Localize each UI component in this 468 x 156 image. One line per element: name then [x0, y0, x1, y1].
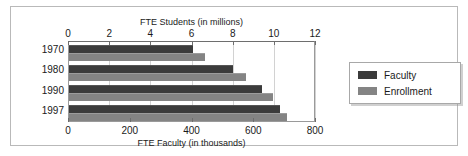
chart-legend: FacultyEnrollment — [349, 62, 461, 104]
bottom-axis-tick-label: 800 — [300, 125, 330, 136]
top-axis-tick-mark — [109, 41, 110, 45]
top-axis-tick-mark — [233, 41, 234, 45]
category-label: 1980 — [29, 64, 64, 75]
bar-faculty — [69, 65, 233, 73]
bar-faculty — [69, 45, 193, 53]
top-axis-tick-mark — [150, 41, 151, 45]
category-label: 1970 — [29, 44, 64, 55]
legend-label: Faculty — [384, 70, 416, 81]
bar-row — [69, 62, 314, 82]
bar-enrollment — [69, 113, 287, 121]
bottom-axis-tick-label: 0 — [53, 125, 83, 136]
top-axis-tick-label: 2 — [94, 28, 124, 39]
top-axis-tick-mark — [315, 41, 316, 45]
plot-area — [68, 41, 315, 122]
bottom-axis-tick-mark — [315, 118, 316, 122]
bottom-axis-tick-mark — [130, 118, 131, 122]
top-axis-tick-label: 4 — [135, 28, 165, 39]
bar-faculty — [69, 105, 280, 113]
top-axis-tick-label: 12 — [300, 28, 330, 39]
bottom-axis-tick-mark — [192, 118, 193, 122]
legend-swatch-icon — [358, 87, 377, 95]
bar-enrollment — [69, 93, 273, 101]
gridline — [315, 42, 316, 121]
top-axis-tick-label: 6 — [177, 28, 207, 39]
top-axis-tick-mark — [68, 41, 69, 45]
chart-screenshot: FTE Students (in millions) 024681012 197… — [0, 0, 468, 156]
top-axis-title: FTE Students (in millions) — [68, 17, 315, 27]
bottom-axis-title: FTE Faculty (in thousands) — [68, 138, 315, 148]
top-axis-tick-mark — [274, 41, 275, 45]
top-axis-tick-label: 8 — [218, 28, 248, 39]
category-label: 1997 — [29, 105, 64, 116]
bar-enrollment — [69, 53, 205, 61]
bottom-axis-tick-label: 200 — [115, 125, 145, 136]
bottom-axis-tick-mark — [68, 118, 69, 122]
bottom-axis-tick-label: 600 — [238, 125, 268, 136]
legend-swatch-icon — [358, 71, 377, 79]
bottom-axis-tick-mark — [253, 118, 254, 122]
chart-frame: FTE Students (in millions) 024681012 197… — [10, 6, 458, 146]
legend-label: Enrollment — [384, 86, 432, 97]
bar-faculty — [69, 85, 262, 93]
bar-row — [69, 42, 314, 62]
top-axis-tick-label: 0 — [53, 28, 83, 39]
legend-entry[interactable]: Faculty — [358, 67, 460, 83]
bottom-axis-tick-label: 400 — [177, 125, 207, 136]
top-axis-tick-label: 10 — [259, 28, 289, 39]
category-label: 1990 — [29, 85, 64, 96]
top-axis-tick-mark — [192, 41, 193, 45]
bar-enrollment — [69, 73, 246, 81]
legend-entry[interactable]: Enrollment — [358, 83, 460, 99]
bar-row — [69, 83, 314, 103]
